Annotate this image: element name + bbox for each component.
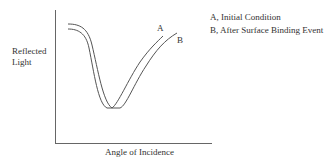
legend-item-b: B, After Surface Binding Event [210, 24, 323, 37]
y-axis-label-line1: Reflected [12, 46, 46, 57]
x-axis-label: Angle of Incidence [105, 147, 174, 158]
curve-b [68, 29, 177, 108]
y-axis-label-line2: Light [12, 57, 46, 68]
legend-item-a: A, Initial Condition [210, 11, 323, 24]
curve-a [68, 24, 163, 108]
curve-a-label: A [157, 23, 164, 34]
curve-b-label: B [177, 35, 183, 46]
legend: A, Initial Condition B, After Surface Bi… [210, 11, 323, 37]
y-axis-label: Reflected Light [12, 46, 46, 68]
